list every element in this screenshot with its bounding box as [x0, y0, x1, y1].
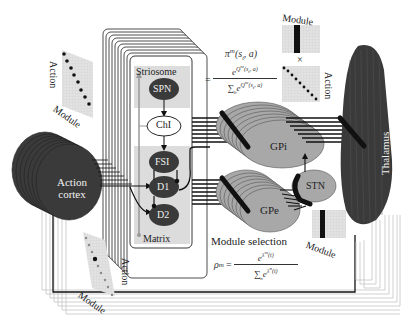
module-selection-equation: ρm = eλm(t) ∑neλn(t) [214, 250, 298, 281]
chi-label: ChI [156, 120, 171, 130]
striosome-label: Striosome [136, 67, 177, 77]
module-den-args: (t) [272, 268, 278, 274]
policy-denominator: ∑beQm(st, a) [213, 80, 277, 95]
top-left-action-label: Action [48, 61, 58, 88]
times-symbol: × [297, 55, 303, 65]
matrix-top-right-module [282, 25, 320, 53]
module-denominator: ∑neλn(t) [234, 266, 298, 281]
module-numerator: eλm(t) [234, 250, 298, 265]
top-right-action-label: Action [323, 72, 333, 99]
action-cortex-label: Action cortex [56, 177, 88, 200]
policy-lhs: πm(st, a) [205, 48, 277, 61]
d1-label: D1 [157, 182, 169, 192]
bottom-left-action-label: Action [120, 258, 130, 285]
spn-label: SPN [153, 84, 171, 94]
thalamus-label: Thalamus [380, 132, 391, 175]
rho-sup: m [219, 262, 224, 269]
diagram-canvas [0, 0, 402, 325]
gpi-label: GPi [270, 141, 287, 152]
policy-equation: πm(st, a) = eQm(st, a) ∑beQm(st, a) [205, 48, 277, 95]
policy-lhs-args2: , a) [244, 48, 257, 59]
gpi-stack [216, 102, 324, 168]
module-eq: = [226, 260, 232, 270]
matrix-label: Matrix [143, 234, 170, 244]
action-cortex-label-line2: cortex [56, 189, 88, 200]
module-num-args: (t) [268, 252, 274, 258]
stn-label: STN [306, 181, 325, 191]
policy-eq: = [205, 75, 211, 85]
matrix-bottom-right [312, 210, 346, 238]
action-cortex-label-line1: Action [56, 177, 88, 188]
module-selection-title: Module selection [211, 236, 287, 247]
policy-num-args2: , a) [250, 66, 258, 72]
gpe-label: GPe [260, 205, 279, 216]
policy-numerator: eQm(st, a) [213, 64, 277, 79]
fsi-label: FSI [155, 157, 169, 167]
gpe-stack [216, 170, 300, 232]
policy-den-args2: , a) [254, 82, 262, 88]
d2-label: D2 [157, 210, 169, 220]
